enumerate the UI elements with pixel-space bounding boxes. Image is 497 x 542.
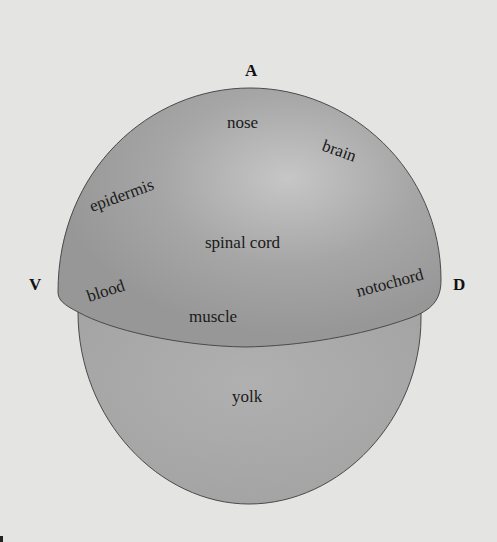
label-nose: nose [227, 113, 258, 132]
label-spinal-cord: spinal cord [205, 233, 281, 252]
axis-label-anterior: A [245, 61, 258, 80]
axis-label-ventral: V [29, 275, 42, 294]
label-yolk: yolk [232, 387, 263, 406]
fate-map-diagram: A V D nose brain epidermis spinal cord b… [0, 0, 497, 542]
label-muscle: muscle [189, 307, 237, 326]
corner-mark [0, 536, 3, 542]
axis-label-dorsal: D [453, 275, 465, 294]
